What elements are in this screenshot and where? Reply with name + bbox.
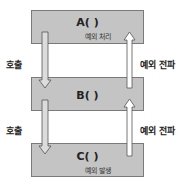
call-label-2: 호출 bbox=[6, 124, 22, 137]
propagate-arrow-up-icon bbox=[124, 32, 135, 88]
call-arrow-down-icon bbox=[39, 32, 51, 88]
propagate-label-2: 예외 전파 bbox=[140, 124, 175, 137]
arrows bbox=[0, 0, 188, 192]
call-arrow-down-icon bbox=[39, 100, 51, 154]
call-label-1: 호출 bbox=[6, 58, 22, 71]
propagate-label-1: 예외 전파 bbox=[140, 58, 175, 71]
propagate-arrow-up-icon bbox=[124, 99, 135, 156]
